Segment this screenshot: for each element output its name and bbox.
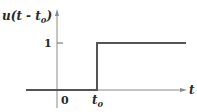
origin-label: 0: [61, 94, 69, 107]
step-signal: [26, 43, 186, 90]
y-axis-arrow-icon: [55, 9, 59, 16]
step-function-diagram: u(t - t0) 1 0 t0 t: [0, 0, 197, 112]
y-axis-label: u(t - t0): [2, 9, 52, 25]
x-axis-label: t: [189, 83, 195, 97]
x-axis-arrow-icon: [180, 88, 187, 92]
y-tick-label: 1: [44, 37, 52, 50]
step-time-label: t0: [92, 93, 104, 109]
